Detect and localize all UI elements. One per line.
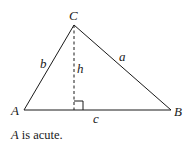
vertex-label-a: A	[10, 103, 19, 118]
right-angle-marker	[74, 101, 83, 110]
caption-text: is acute.	[19, 128, 63, 142]
caption-variable: A	[11, 128, 19, 142]
vertex-label-b: B	[174, 104, 182, 119]
caption: A is acute.	[11, 128, 63, 143]
triangle-diagram: C A B b a c h	[0, 0, 185, 145]
side-label-a: a	[119, 49, 126, 64]
side-label-c: c	[93, 111, 99, 126]
vertex-label-c: C	[69, 8, 78, 23]
side-label-b: b	[40, 56, 47, 71]
altitude-label-h: h	[77, 61, 84, 76]
